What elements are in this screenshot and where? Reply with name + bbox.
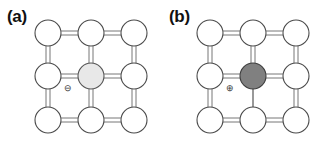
center-atom-a (78, 63, 104, 89)
atom-r1c3 (121, 20, 147, 46)
center-atom-b (240, 63, 266, 89)
atom-r2c1 (197, 63, 223, 89)
atom-r3c1 (35, 107, 61, 133)
atom-r2c3 (121, 63, 147, 89)
atom-r3c2 (240, 107, 266, 133)
atom-r1c1 (35, 20, 61, 46)
atom-r2c1 (35, 63, 61, 89)
panel-a: (a) (0, 0, 161, 141)
panel-b: (b) (162, 0, 323, 141)
positive-charge-symbol: ⊕ (226, 84, 234, 93)
atom-r3c1 (197, 107, 223, 133)
negative-charge-symbol: ⊖ (64, 84, 72, 93)
atom-r2c3 (283, 63, 309, 89)
atom-r1c3 (283, 20, 309, 46)
atom-r1c2 (78, 20, 104, 46)
lattice-diagram-b (162, 0, 323, 141)
atom-r3c3 (283, 107, 309, 133)
lattice-diagram-a (0, 0, 161, 141)
figure-container: (a) (0, 0, 323, 141)
atom-r1c1 (197, 20, 223, 46)
atom-r3c2 (78, 107, 104, 133)
atom-r1c2 (240, 20, 266, 46)
atom-r3c3 (121, 107, 147, 133)
